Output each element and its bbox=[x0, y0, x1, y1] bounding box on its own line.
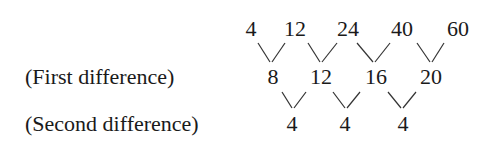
connector-lines bbox=[0, 0, 480, 150]
